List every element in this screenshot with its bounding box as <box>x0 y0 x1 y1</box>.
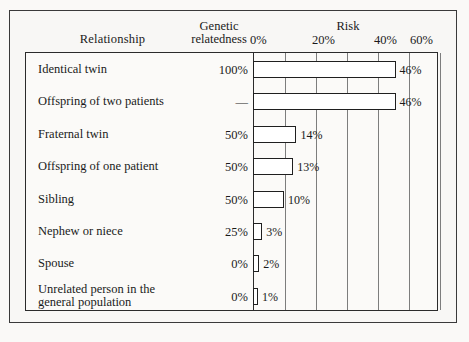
row-bar-wrapper: 10% <box>253 191 437 209</box>
risk-bar <box>253 255 259 272</box>
row-genetic-relatedness: 0% <box>206 290 248 305</box>
table-row: Offspring of one patient50%13% <box>26 151 437 183</box>
risk-bar <box>253 126 296 143</box>
table-row: Fraternal twin50%14% <box>26 119 437 151</box>
risk-bar-value-label: 10% <box>288 193 310 208</box>
row-label-line-1: Fraternal twin <box>38 128 206 142</box>
risk-bar-value-label: 46% <box>400 95 422 110</box>
row-bar-wrapper: 13% <box>253 158 437 176</box>
chart-table-box: Identical twin100%46%Offspring of two pa… <box>25 52 438 311</box>
table-row: Unrelated person in thegeneral populatio… <box>26 281 437 313</box>
axis-tick-20: 20% <box>312 33 335 48</box>
table-row: Offspring of two patients—46% <box>26 86 437 118</box>
risk-bar <box>253 93 396 110</box>
risk-bar-value-label: 14% <box>300 128 322 143</box>
row-bar-wrapper: 1% <box>253 288 437 306</box>
column-header-risk: Risk <box>252 19 444 34</box>
risk-bar <box>253 158 293 175</box>
risk-bar <box>253 61 396 78</box>
row-bar-wrapper: 2% <box>253 255 437 273</box>
row-label-relationship: Spouse <box>38 257 206 271</box>
row-label-line-1: Offspring of one patient <box>38 160 206 174</box>
row-label-relationship: Nephew or niece <box>38 225 206 239</box>
risk-bar-value-label: 3% <box>266 225 282 240</box>
row-label-relationship: Fraternal twin <box>38 128 206 142</box>
risk-bar-value-label: 13% <box>297 160 319 175</box>
row-label-relationship: Unrelated person in thegeneral populatio… <box>38 283 206 310</box>
row-label-line-1: Spouse <box>38 257 206 271</box>
row-bar-wrapper: 14% <box>253 126 437 144</box>
axis-tick-40: 40% <box>374 33 397 48</box>
row-label-line-2: general population <box>38 296 206 310</box>
chart-header: Relationship Genetic relatedness Risk 0%… <box>9 10 457 52</box>
column-header-genetic-line1: Genetic <box>200 19 239 33</box>
column-header-genetic-relatedness: Genetic relatedness <box>184 20 254 46</box>
row-bar-wrapper: 3% <box>253 223 437 241</box>
row-label-line-1: Offspring of two patients <box>38 95 206 109</box>
risk-bar-value-label: 1% <box>262 290 278 305</box>
table-row: Identical twin100%46% <box>26 54 437 86</box>
row-bar-wrapper: 46% <box>253 93 437 111</box>
row-genetic-relatedness: 50% <box>206 128 248 143</box>
row-genetic-relatedness: 0% <box>206 257 248 272</box>
table-row: Sibling50%10% <box>26 184 437 216</box>
row-label-relationship: Sibling <box>38 193 206 207</box>
risk-bar <box>253 191 284 208</box>
column-header-relationship: Relationship <box>25 32 200 47</box>
row-label-relationship: Offspring of one patient <box>38 160 206 174</box>
row-label-line-1: Unrelated person in the <box>38 283 206 297</box>
row-genetic-relatedness: — <box>206 95 248 110</box>
row-label-relationship: Offspring of two patients <box>38 95 206 109</box>
row-bar-wrapper: 46% <box>253 61 437 79</box>
row-label-line-1: Nephew or niece <box>38 225 206 239</box>
row-genetic-relatedness: 50% <box>206 160 248 175</box>
risk-bar-value-label: 2% <box>263 257 279 272</box>
row-genetic-relatedness: 25% <box>206 225 248 240</box>
table-row: Nephew or niece25%3% <box>26 216 437 248</box>
row-genetic-relatedness: 50% <box>206 193 248 208</box>
row-label-line-1: Sibling <box>38 193 206 207</box>
risk-bar <box>253 223 262 240</box>
risk-bar <box>253 288 258 305</box>
table-row: Spouse0%2% <box>26 248 437 280</box>
risk-bar-value-label: 46% <box>400 63 422 78</box>
row-label-line-1: Identical twin <box>38 63 206 77</box>
axis-tick-0: 0% <box>250 33 267 48</box>
chart-figure: Relationship Genetic relatedness Risk 0%… <box>0 0 469 342</box>
row-genetic-relatedness: 100% <box>206 63 248 78</box>
column-header-genetic-line2: relatedness <box>184 33 254 46</box>
axis-tick-60: 60% <box>410 33 433 48</box>
gridline-60 <box>440 53 441 310</box>
row-label-relationship: Identical twin <box>38 63 206 77</box>
